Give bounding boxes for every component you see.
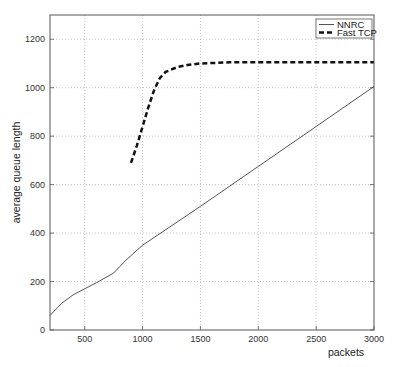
- y-tick-label: 800: [30, 131, 45, 141]
- line-chart: 50010001500200025003000 0200400600800100…: [0, 0, 396, 367]
- x-axis-ticks: 50010001500200025003000: [77, 326, 384, 344]
- x-tick-label: 1500: [190, 334, 210, 344]
- series-fast-tcp-line: [131, 62, 374, 163]
- legend-fast-tcp-label: Fast TCP: [337, 27, 377, 38]
- y-tick-label: 1000: [25, 83, 45, 93]
- x-tick-label: 1000: [133, 334, 153, 344]
- x-axis-label: packets: [328, 346, 364, 358]
- series-nnrc-line: [50, 87, 374, 316]
- y-tick-label: 600: [30, 180, 45, 190]
- x-tick-label: 2500: [306, 334, 326, 344]
- x-tick-label: 2000: [248, 334, 268, 344]
- y-tick-label: 400: [30, 228, 45, 238]
- y-tick-label: 200: [30, 277, 45, 287]
- y-tick-label: 1200: [25, 34, 45, 44]
- legend: NNRC Fast TCP: [316, 19, 377, 38]
- y-tick-label: 0: [40, 325, 45, 335]
- x-tick-label: 3000: [364, 334, 384, 344]
- series-lines: [50, 62, 374, 315]
- y-axis-label: average queue length: [10, 122, 22, 224]
- x-tick-label: 500: [77, 334, 92, 344]
